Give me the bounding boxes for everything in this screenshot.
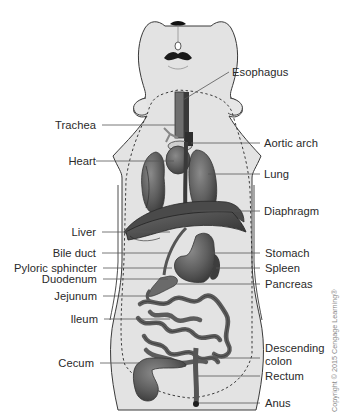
label-aortic-arch: Aortic arch [264, 137, 318, 149]
label-esophagus: Esophagus [232, 66, 288, 78]
label-liver: Liver [72, 226, 97, 238]
label-pancreas: Pancreas [265, 278, 313, 290]
anus [193, 401, 199, 407]
label-bile-duct: Bile duct [53, 247, 96, 259]
label-ileum: Ileum [70, 313, 98, 325]
label-trachea: Trachea [55, 119, 96, 131]
label-lung: Lung [264, 168, 289, 180]
label-anus: Anus [265, 397, 291, 409]
descending-colon [195, 348, 196, 404]
label-duodenum: Duodenum [42, 273, 97, 285]
label-stomach: Stomach [265, 247, 310, 259]
label-rectum: Rectum [265, 370, 304, 382]
label-descending-colon-line1: Descending [265, 342, 325, 354]
copyright-notice: Copyright © 2015 Cengage Learning® [330, 290, 339, 412]
anatomy-diagram: Trachea Heart Liver Bile duct Pyloric sp… [0, 0, 344, 417]
label-spleen: Spleen [265, 262, 300, 274]
label-heart: Heart [68, 155, 96, 167]
label-cecum: Cecum [58, 357, 94, 369]
label-diaphragm: Diaphragm [264, 205, 319, 217]
label-jejunum: Jejunum [54, 290, 97, 302]
label-descending-colon-line2: colon [265, 355, 292, 367]
